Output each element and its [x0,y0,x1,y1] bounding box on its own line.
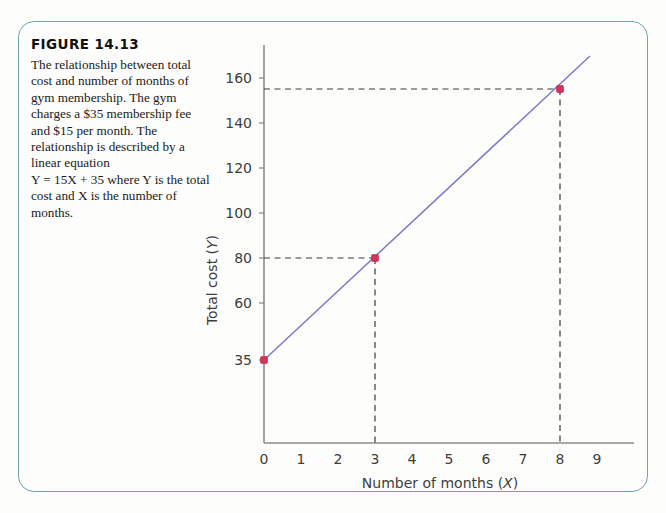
y-axis-ticks: 160 140 120 100 80 60 35 [225,70,264,368]
x-ticklabel-3: 3 [371,451,380,467]
regression-line [264,56,590,360]
x-ticklabel-5: 5 [445,451,454,467]
y-ticklabel-120: 120 [225,160,252,176]
figure-page: FIGURE 14.13 The relationship between to… [0,0,666,513]
line-chart: Total cost (Y) 160 140 120 100 80 60 [200,30,648,492]
x-axis-title: Number of months (X) [362,475,518,491]
figure-number-label: FIGURE 14.13 [31,36,213,52]
x-ticklabel-1: 1 [297,451,306,467]
x-ticklabel-8: 8 [556,451,565,467]
x-ticklabel-9: 9 [593,451,602,467]
data-point-8-155 [557,86,564,93]
caption-line-2: cost and number of months of [31,73,189,88]
caption-line-3: gym membership. The gym [31,90,177,105]
chart-svg: Total cost (Y) 160 140 120 100 80 60 [200,30,648,492]
figure-caption: FIGURE 14.13 The relationship between to… [31,36,213,221]
x-ticklabel-2: 2 [334,451,343,467]
y-ticklabel-35: 35 [234,352,252,368]
x-ticklabel-0: 0 [260,451,269,467]
x-ticklabel-4: 4 [408,451,417,467]
y-ticklabel-100: 100 [225,205,252,221]
y-ticklabel-80: 80 [234,250,252,266]
x-ticklabel-6: 6 [482,451,491,467]
x-ticklabel-7: 7 [519,451,528,467]
y-ticklabel-160: 160 [225,70,252,86]
data-point-3-80 [372,255,379,262]
y-ticklabel-140: 140 [225,115,252,131]
x-axis-ticks: 0 1 2 3 4 5 6 7 8 9 [260,451,602,467]
caption-line-1: The relationship between total [31,57,191,72]
data-point-0-35 [261,357,268,364]
y-ticklabel-60: 60 [234,295,252,311]
figure-caption-text: The relationship between total cost and … [31,57,213,221]
caption-equation-line: Y = 15X + 35 where Y is the [31,172,183,187]
y-axis-title: Total cost (Y) [204,235,220,326]
